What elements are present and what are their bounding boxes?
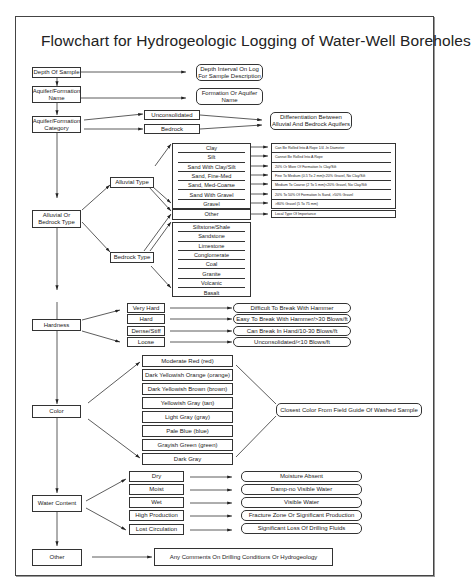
water-label: Wet [151,499,162,506]
water-label: Moist [149,486,163,493]
bedrock-type-label: Bedrock Type [110,252,154,263]
step-label: Water Content [38,500,76,507]
hardness-label: Hard [139,316,152,323]
bedrock-item: Conglomerate [178,251,245,260]
alluvial-description: Fine To Medium (0.5 To 2 mm)<20% Gravel,… [272,172,391,181]
water-label: Lost Circulation [136,526,177,533]
alluvial-description: Medium To Coarse (2 To 5 mm)<20% Gravel,… [272,181,391,190]
result-text: Unconsolidated/<10 Blows/ft [254,339,330,346]
step-alluvial-or-bedrock-type: Alluvial Or Bedrock Type [32,210,81,228]
result-text: Differentiation Between Alluvial And Bed… [271,114,351,128]
color-item: Grayish Green (green) [142,439,233,451]
other-description-text: Local Type Of Importance [272,211,391,217]
color-item: Moderate Red (red) [142,355,233,367]
color-result: Closest Color From Field Guide Of Washed… [276,403,422,417]
color-label: Yellowish Gray (tan) [161,400,214,407]
step-aquifer-category: Aquifer/Formation Category [32,116,81,133]
step-label: Aquifer/Formation Name [33,88,81,102]
name-result: Formation Or Aquifer Name [196,88,263,105]
water-high-production: High Production [129,510,184,521]
bedrock-item: Volcanic [178,279,245,288]
result-text: Any Comments On Drilling Conditions Or H… [170,554,318,561]
bedrock-item: Siltstone/Shale [178,223,245,232]
hardness-result-loose: Unconsolidated/<10 Blows/ft [233,337,351,347]
color-item: Pale Blue (blue) [142,425,233,437]
alluvial-description-list: Can Be Rolled Into A Rope 1/4 -In Diamet… [271,143,396,209]
hardness-label: Very Hard [133,305,160,312]
color-label: Dark Yellowish Orange (orange) [145,372,230,379]
alluvial-item: Sand, Fine-Med [178,172,245,181]
color-label: Dark Gray [174,456,201,463]
step-color: Color [32,405,81,418]
water-moist: Moist [129,484,184,495]
hardness-result-dense-stiff: Can Break In Hand/10-30 Blows/ft [233,326,351,336]
hardness-loose: Loose [127,337,165,347]
option-label: Unconsolidated [151,112,192,119]
water-result-lost-circulation: Significant Loss Of Drilling Fluids [241,523,362,534]
alluvial-item: Sand With Gravel [178,190,245,199]
result-text: Significant Loss Of Drilling Fluids [258,525,346,532]
alluvial-item: Silt [178,153,245,162]
step-aquifer-name: Aquifer/Formation Name [32,86,81,103]
bedrock-item: Granite [178,269,245,278]
step-label: Depth Of Sample [33,69,79,76]
water-dry: Dry [129,471,184,482]
alluvial-description: >80% Gravel (5 To 75 mm) [272,200,391,209]
result-text: Fracture Zone Or Significant Production [249,512,355,519]
step-label: Other [49,554,64,561]
hardness-label: Dense/Stiff [131,328,160,335]
color-item: Light Gray (gray) [142,411,233,423]
alluvial-item: Sand With Clay/Silt [178,163,245,172]
hardness-dense-stiff: Dense/Stiff [127,326,165,336]
alluvial-description: Cannot Be Rolled Into A Rope [272,153,391,162]
step-hardness: Hardness [32,319,81,331]
color-item: Dark Yellowish Brown (brown) [142,383,233,395]
step-water-content: Water Content [32,495,82,512]
category-bedrock: Bedrock [144,124,200,134]
page-title: Flowchart for Hydrogeologic Logging of W… [41,32,471,50]
result-text: Damp-no Visible Water [271,486,332,493]
result-text: Difficult To Break With Hammer [250,305,333,312]
color-label: Light Gray (gray) [165,414,210,421]
bedrock-type-list: Siltstone/Shale Sandstone Limestone Cong… [172,222,251,297]
water-result-dry: Moisture Absent [241,471,362,482]
alluvial-type-label: Alluvial Type [110,177,154,188]
result-text: Easy To Break With Hammer/>30 Blows/ft [236,316,347,323]
color-label: Grayish Green (green) [157,442,217,449]
water-result-moist: Damp-no Visible Water [241,484,362,495]
result-text: Depth Interval On Log For Sample Descrip… [197,66,262,80]
color-list: Moderate Red (red) Dark Yellowish Orange… [142,355,233,467]
color-label: Pale Blue (blue) [166,428,209,435]
result-text: Visible Water [284,499,319,506]
depth-result: Depth Interval On Log For Sample Descrip… [196,64,263,81]
water-result-high-production: Fracture Zone Or Significant Production [241,510,362,521]
result-text: Closest Color From Field Guide Of Washed… [280,407,418,414]
hardness-hard: Hard [127,314,165,324]
other-result: Any Comments On Drilling Conditions Or H… [154,548,333,566]
bedrock-item: Sandstone [178,232,245,241]
water-label: High Production [135,512,178,519]
step-label: Color [49,408,63,415]
step-label: Hardness [44,322,70,329]
water-wet: Wet [129,497,184,508]
water-lost-circulation: Lost Circulation [129,524,184,535]
type-other: Other [172,209,251,220]
color-label: Dark Yellowish Brown (brown) [148,386,228,393]
alluvial-type-list: Clay Silt Sand With Clay/Silt Sand, Fine… [172,143,251,209]
alluvial-item: Sand, Med-Coarse [178,181,245,190]
step-depth-of-sample: Depth Of Sample [32,67,81,78]
hardness-very-hard: Very Hard [127,303,165,313]
step-other: Other [32,549,82,566]
hardness-result-hard: Easy To Break With Hammer/>30 Blows/ft [233,314,351,324]
color-item: Dark Gray [142,453,233,465]
alluvial-description: 20% To 50% Of Formation Is Sand, >50% Gr… [272,190,391,199]
bedrock-item: Limestone [178,242,245,251]
bedrock-item: Basalt [178,288,245,297]
category-unconsolidated: Unconsolidated [144,110,200,120]
step-label: Alluvial Or Bedrock Type [33,212,80,226]
category-result: Differentiation Between Alluvial And Bed… [270,112,352,130]
alluvial-item: Gravel [178,200,245,209]
alluvial-item: Clay [178,144,245,153]
result-text: Can Break In Hand/10-30 Blows/ft [247,328,338,335]
type-other-label: Other [205,211,219,218]
